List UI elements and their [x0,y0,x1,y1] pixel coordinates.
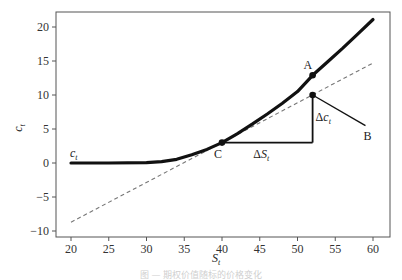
label-b: B [363,129,371,143]
y-axis-title-sub: t [18,123,27,126]
x-tick-label: 45 [254,242,266,256]
x-tick-label: 60 [367,242,379,256]
plot-frame [56,12,390,237]
y-tick-label: 0 [43,156,49,170]
figure-caption: 图 — 期权价值随标的价格变化 [0,268,402,280]
point-c-marker [219,139,226,146]
tangent-point-marker [309,92,316,99]
x-axis-title-sub: t [218,258,221,267]
x-axis: 202530354045505560 [65,237,379,256]
y-tick-label: 15 [37,54,49,68]
y-tick-label: −5 [36,190,49,204]
x-tick-label: 55 [329,242,341,256]
y-axis-title: ct [11,123,27,131]
x-tick-label: 25 [103,242,115,256]
x-tick-label: 30 [141,242,153,256]
y-tick-label: −10 [30,224,49,238]
y-tick-label: 5 [43,122,49,136]
y-tick-label: 20 [37,20,49,34]
y-tick-label: 10 [37,88,49,102]
label-a: A [304,58,313,72]
label-c: C [214,147,222,161]
chart: −10−505101520 202530354045505560 A B C Δ… [0,0,402,280]
x-tick-label: 20 [65,242,77,256]
x-tick-label: 35 [178,242,190,256]
x-tick-label: 50 [292,242,304,256]
point-a-marker [309,72,316,79]
y-axis: −10−505101520 [30,20,56,238]
